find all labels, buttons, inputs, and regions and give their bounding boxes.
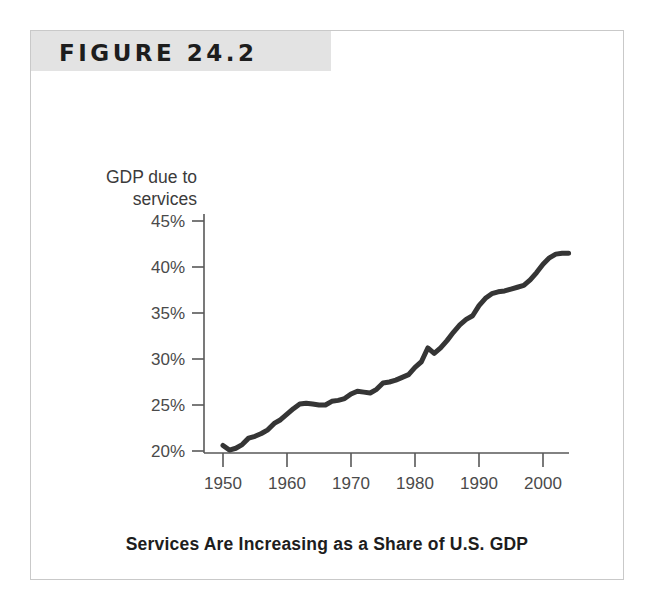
figure-banner: FIGURE 24.2 xyxy=(31,31,331,71)
x-tick-label-1970: 1970 xyxy=(332,474,370,493)
y-axis-title-line1: GDP due to xyxy=(106,167,197,187)
figure-card: FIGURE 24.2 GDP due to services 45% 40% … xyxy=(30,30,624,580)
y-axis-title: GDP due to services xyxy=(106,167,197,209)
figure-number-label: FIGURE 24.2 xyxy=(59,40,258,66)
y-axis-ticks: 45% 40% 35% 30% 25% 20% xyxy=(151,212,204,461)
line-chart-svg: GDP due to services 45% 40% 35% 30% 25% … xyxy=(31,71,623,501)
figure-caption: Services Are Increasing as a Share of U.… xyxy=(31,534,623,555)
y-tick-label-30: 30% xyxy=(151,350,185,369)
x-tick-label-1960: 1960 xyxy=(268,474,306,493)
y-tick-label-35: 35% xyxy=(151,304,185,323)
chart-plot-area: GDP due to services 45% 40% 35% 30% 25% … xyxy=(31,71,623,501)
x-axis-ticks: 1950 1960 1970 1980 1990 2000 xyxy=(204,453,562,493)
y-tick-label-45: 45% xyxy=(151,212,185,231)
data-series-line xyxy=(223,253,569,450)
y-tick-label-25: 25% xyxy=(151,396,185,415)
y-tick-label-20: 20% xyxy=(151,442,185,461)
x-tick-label-1990: 1990 xyxy=(460,474,498,493)
y-axis-title-line2: services xyxy=(133,189,197,209)
x-tick-label-1980: 1980 xyxy=(396,474,434,493)
x-tick-label-2000: 2000 xyxy=(524,474,562,493)
y-tick-label-40: 40% xyxy=(151,258,185,277)
x-tick-label-1950: 1950 xyxy=(204,474,242,493)
